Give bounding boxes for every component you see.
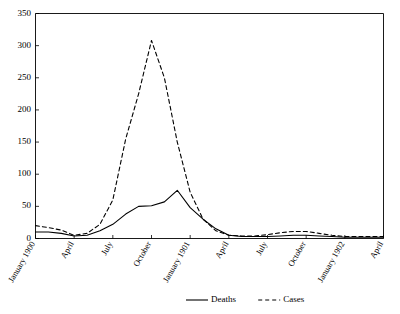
x-axis-ticks: January 1900AprilJulyOctoberJanuary 1901…	[6, 235, 386, 284]
x-tick-label: April	[368, 239, 386, 260]
series-line-deaths	[36, 190, 384, 237]
x-tick-label: January 1900	[6, 240, 37, 284]
x-tick-label: July	[253, 239, 269, 257]
plot-frame	[36, 14, 384, 239]
legend-label-deaths: Deaths	[211, 294, 236, 304]
y-tick-label: 350	[18, 8, 32, 18]
x-tick-label: October	[131, 239, 153, 268]
chart-container: 050100150200250300350 January 1900AprilJ…	[0, 0, 400, 314]
y-tick-label: 300	[18, 40, 32, 50]
y-tick-label: 50	[22, 200, 32, 210]
series-line-cases	[36, 41, 384, 237]
y-tick-label: 200	[18, 104, 32, 114]
y-tick-label: 250	[18, 72, 32, 82]
x-tick-label: January 1902	[315, 240, 346, 284]
line-chart: 050100150200250300350 January 1900AprilJ…	[0, 0, 400, 314]
x-tick-label: July	[99, 239, 115, 257]
x-tick-label: April	[213, 239, 231, 260]
x-tick-label: January 1901	[160, 240, 191, 284]
x-tick-label: October	[286, 239, 308, 268]
chart-legend: DeathsCases	[186, 294, 305, 304]
y-tick-label: 150	[18, 136, 32, 146]
series-group	[36, 41, 384, 238]
y-tick-label: 100	[18, 168, 32, 178]
x-tick-label: April	[58, 239, 76, 260]
legend-label-cases: Cases	[283, 294, 304, 304]
